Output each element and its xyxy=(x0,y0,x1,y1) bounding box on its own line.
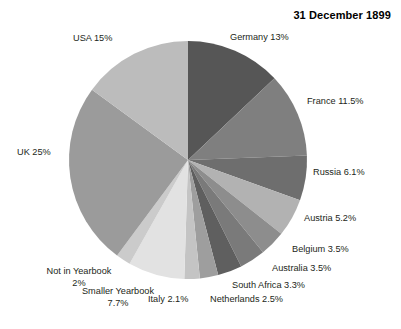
slice-label-germany: Germany 13% xyxy=(230,32,289,44)
slice-label-usa: USA 15% xyxy=(73,33,112,45)
not-in-yearbook-name: Not in Yearbook xyxy=(47,266,112,276)
slice-label-smaller-yearbook: Smaller Yearbook 7.7% xyxy=(73,286,163,309)
slice-label-france: France 11.5% xyxy=(307,96,364,108)
slice-label-belgium: Belgium 3.5% xyxy=(292,244,349,256)
pie-chart-figure: 31 December 1899 Germany 13% France 11.5… xyxy=(0,0,401,329)
slice-label-not-in-yearbook: Not in Yearbook 2% xyxy=(38,266,120,289)
slice-label-netherlands: Netherlands 2.5% xyxy=(210,294,283,306)
slice-label-south-africa: South Africa 3.3% xyxy=(232,280,305,292)
slice-label-uk: UK 25% xyxy=(17,147,51,159)
smaller-yearbook-value: 7.7% xyxy=(108,298,129,308)
slice-label-russia: Russia 6.1% xyxy=(313,167,365,179)
slice-label-austria: Austria 5.2% xyxy=(304,213,356,225)
slice-label-australia: Australia 3.5% xyxy=(272,263,331,275)
not-in-yearbook-value: 2% xyxy=(72,278,85,288)
pie-slice-group xyxy=(69,41,307,279)
